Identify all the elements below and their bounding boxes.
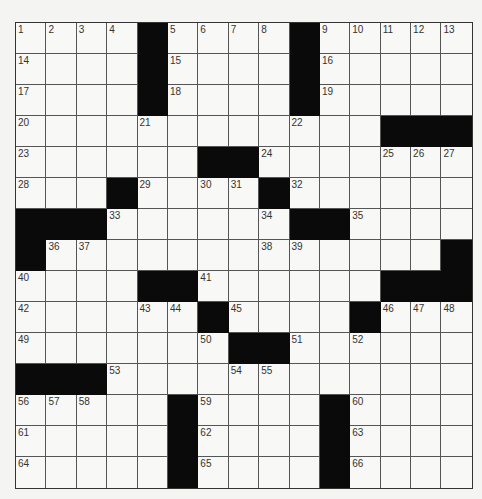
grid-cell[interactable] xyxy=(381,178,411,209)
grid-cell[interactable]: 18 xyxy=(168,85,198,116)
grid-cell[interactable] xyxy=(168,240,198,271)
grid-cell[interactable] xyxy=(411,209,441,240)
grid-cell[interactable] xyxy=(198,209,228,240)
grid-cell[interactable] xyxy=(320,333,350,364)
grid-cell[interactable] xyxy=(381,364,411,395)
grid-cell[interactable]: 60 xyxy=(350,395,380,426)
grid-cell[interactable] xyxy=(77,302,107,333)
grid-cell[interactable] xyxy=(259,457,289,488)
grid-cell[interactable] xyxy=(411,426,441,457)
grid-cell[interactable] xyxy=(350,240,380,271)
grid-cell[interactable]: 39 xyxy=(290,240,320,271)
grid-cell[interactable] xyxy=(441,395,471,426)
grid-cell[interactable] xyxy=(107,240,137,271)
grid-cell[interactable] xyxy=(77,85,107,116)
grid-cell[interactable] xyxy=(138,240,168,271)
grid-cell[interactable] xyxy=(320,240,350,271)
grid-cell[interactable] xyxy=(441,333,471,364)
grid-cell[interactable]: 23 xyxy=(16,147,46,178)
grid-cell[interactable] xyxy=(107,457,137,488)
grid-cell[interactable] xyxy=(229,271,259,302)
grid-cell[interactable] xyxy=(411,178,441,209)
grid-cell[interactable] xyxy=(290,426,320,457)
grid-cell[interactable] xyxy=(138,395,168,426)
grid-cell[interactable]: 25 xyxy=(381,147,411,178)
grid-cell[interactable] xyxy=(259,302,289,333)
grid-cell[interactable] xyxy=(229,240,259,271)
grid-cell[interactable] xyxy=(46,116,76,147)
grid-cell[interactable] xyxy=(198,240,228,271)
grid-cell[interactable] xyxy=(107,333,137,364)
grid-cell[interactable] xyxy=(229,116,259,147)
grid-cell[interactable] xyxy=(411,395,441,426)
grid-cell[interactable] xyxy=(107,426,137,457)
grid-cell[interactable]: 4 xyxy=(107,23,137,54)
grid-cell[interactable] xyxy=(290,364,320,395)
grid-cell[interactable] xyxy=(138,426,168,457)
grid-cell[interactable] xyxy=(441,54,471,85)
grid-cell[interactable] xyxy=(198,364,228,395)
grid-cell[interactable] xyxy=(259,426,289,457)
grid-cell[interactable]: 61 xyxy=(16,426,46,457)
grid-cell[interactable]: 26 xyxy=(411,147,441,178)
grid-cell[interactable] xyxy=(168,178,198,209)
grid-cell[interactable]: 12 xyxy=(411,23,441,54)
grid-cell[interactable]: 48 xyxy=(441,302,471,333)
grid-cell[interactable]: 33 xyxy=(107,209,137,240)
grid-cell[interactable]: 41 xyxy=(198,271,228,302)
grid-cell[interactable] xyxy=(46,271,76,302)
grid-cell[interactable]: 40 xyxy=(16,271,46,302)
grid-cell[interactable]: 32 xyxy=(290,178,320,209)
grid-cell[interactable]: 5 xyxy=(168,23,198,54)
grid-cell[interactable] xyxy=(381,85,411,116)
grid-cell[interactable]: 45 xyxy=(229,302,259,333)
grid-cell[interactable] xyxy=(107,271,137,302)
grid-cell[interactable]: 36 xyxy=(46,240,76,271)
grid-cell[interactable] xyxy=(107,116,137,147)
grid-cell[interactable] xyxy=(138,147,168,178)
grid-cell[interactable] xyxy=(138,209,168,240)
grid-cell[interactable] xyxy=(411,54,441,85)
grid-cell[interactable]: 54 xyxy=(229,364,259,395)
grid-cell[interactable] xyxy=(441,364,471,395)
grid-cell[interactable] xyxy=(168,116,198,147)
grid-cell[interactable] xyxy=(138,333,168,364)
grid-cell[interactable]: 35 xyxy=(350,209,380,240)
grid-cell[interactable]: 58 xyxy=(77,395,107,426)
grid-cell[interactable] xyxy=(168,333,198,364)
grid-cell[interactable] xyxy=(320,302,350,333)
grid-cell[interactable]: 37 xyxy=(77,240,107,271)
grid-cell[interactable]: 21 xyxy=(138,116,168,147)
grid-cell[interactable] xyxy=(107,395,137,426)
grid-cell[interactable] xyxy=(441,457,471,488)
grid-cell[interactable]: 8 xyxy=(259,23,289,54)
grid-cell[interactable]: 27 xyxy=(441,147,471,178)
grid-cell[interactable] xyxy=(350,85,380,116)
grid-cell[interactable] xyxy=(198,54,228,85)
grid-cell[interactable] xyxy=(259,116,289,147)
grid-cell[interactable] xyxy=(381,54,411,85)
grid-cell[interactable] xyxy=(320,147,350,178)
grid-cell[interactable]: 2 xyxy=(46,23,76,54)
grid-cell[interactable]: 3 xyxy=(77,23,107,54)
grid-cell[interactable] xyxy=(259,54,289,85)
grid-cell[interactable]: 7 xyxy=(229,23,259,54)
grid-cell[interactable]: 19 xyxy=(320,85,350,116)
grid-cell[interactable] xyxy=(138,364,168,395)
grid-cell[interactable]: 34 xyxy=(259,209,289,240)
grid-cell[interactable] xyxy=(46,54,76,85)
grid-cell[interactable] xyxy=(290,395,320,426)
grid-cell[interactable] xyxy=(77,178,107,209)
grid-cell[interactable] xyxy=(46,333,76,364)
grid-cell[interactable]: 57 xyxy=(46,395,76,426)
grid-cell[interactable] xyxy=(290,302,320,333)
grid-cell[interactable] xyxy=(381,240,411,271)
grid-cell[interactable] xyxy=(198,116,228,147)
grid-cell[interactable] xyxy=(259,271,289,302)
grid-cell[interactable]: 46 xyxy=(381,302,411,333)
grid-cell[interactable] xyxy=(77,426,107,457)
grid-cell[interactable]: 47 xyxy=(411,302,441,333)
grid-cell[interactable]: 10 xyxy=(350,23,380,54)
grid-cell[interactable]: 28 xyxy=(16,178,46,209)
grid-cell[interactable] xyxy=(441,426,471,457)
